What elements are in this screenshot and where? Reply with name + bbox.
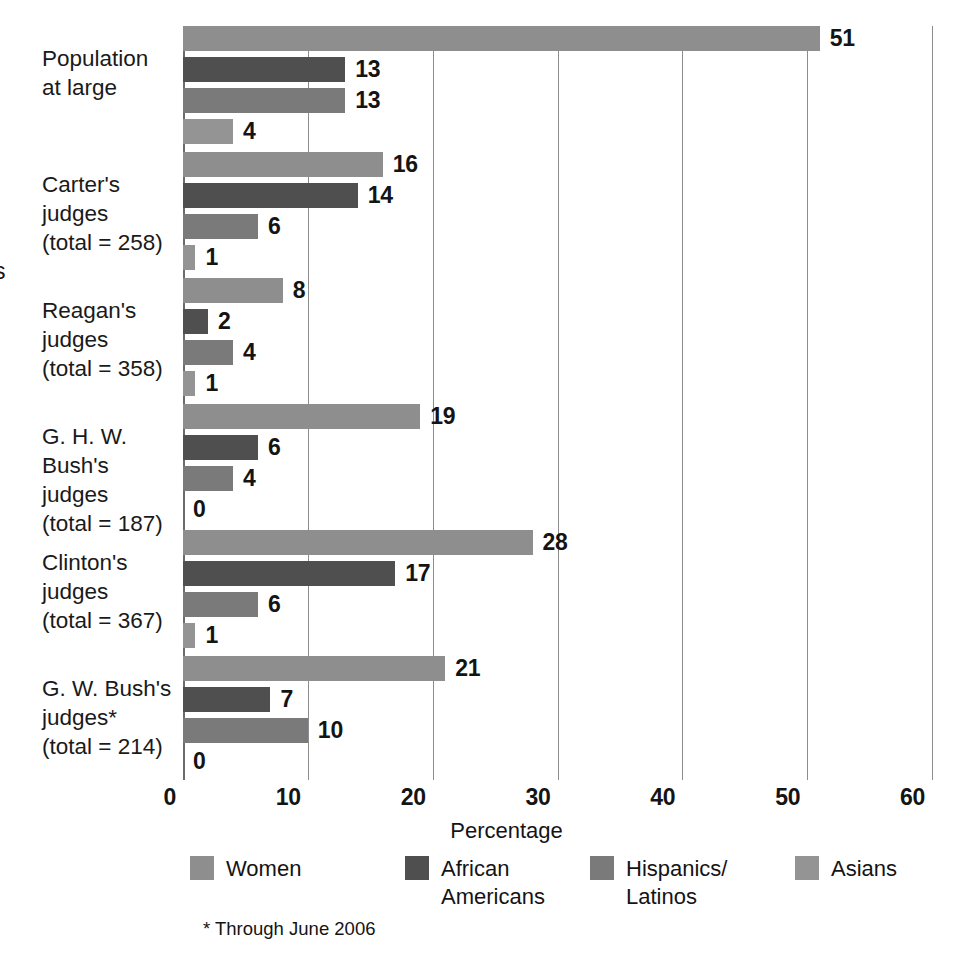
bar-row: 4 bbox=[183, 466, 932, 491]
bar-group: 5113134 bbox=[183, 26, 932, 150]
bar-value-label: 51 bbox=[830, 24, 855, 51]
bar-value-label: 4 bbox=[243, 338, 256, 365]
footnote: * Through June 2006 bbox=[203, 918, 375, 940]
category-label: G. H. W. Bush's judges (total = 187) bbox=[0, 422, 183, 538]
legend-swatch-icon bbox=[590, 856, 614, 880]
category-label-text: G. W. Bush's judges* (total = 214) bbox=[0, 674, 183, 761]
bar-value-label: 19 bbox=[430, 402, 455, 429]
legend-swatch-icon bbox=[795, 856, 819, 880]
legend-label: Hispanics/ Latinos bbox=[626, 855, 727, 911]
bar-value-label: 1 bbox=[205, 621, 218, 648]
bar-row: 1 bbox=[183, 245, 932, 270]
bar-value-label: 17 bbox=[405, 559, 430, 586]
bar-row: 51 bbox=[183, 26, 932, 51]
bar-row: 6 bbox=[183, 435, 932, 460]
legend-item[interactable]: Hispanics/ Latinos bbox=[590, 855, 727, 911]
bar-row: 1 bbox=[183, 371, 932, 396]
category-label: Population at large bbox=[0, 44, 183, 102]
bar-row: 13 bbox=[183, 88, 932, 113]
x-tick-20: 20 bbox=[401, 784, 431, 811]
bar-value-label: 28 bbox=[543, 528, 568, 555]
bar-row: 2 bbox=[183, 309, 932, 334]
bar-value-label: 10 bbox=[318, 716, 343, 743]
bar-value-label: 14 bbox=[368, 181, 393, 208]
bar bbox=[183, 561, 395, 586]
bar-value-label: 6 bbox=[268, 433, 281, 460]
x-tick-0: 0 bbox=[164, 784, 182, 811]
legend-item[interactable]: Asians bbox=[795, 855, 897, 883]
legend-label: African Americans bbox=[441, 855, 545, 911]
category-label-text: Clinton's judges (total = 367) bbox=[0, 548, 183, 635]
cropped-axis-label-fragment: s bbox=[0, 258, 6, 285]
bar-row: 4 bbox=[183, 340, 932, 365]
bar-row: 17 bbox=[183, 561, 932, 586]
legend-label: Women bbox=[226, 855, 301, 883]
x-axis-title-text: Percentage bbox=[450, 818, 563, 843]
category-label: Reagan's judges (total = 358) bbox=[0, 296, 183, 383]
bar-row: 0 bbox=[183, 749, 932, 774]
bar-group: 19640 bbox=[183, 404, 932, 528]
bar bbox=[183, 119, 233, 144]
bar bbox=[183, 466, 233, 491]
bar-group: 8241 bbox=[183, 278, 932, 402]
bar bbox=[183, 309, 208, 334]
legend-swatch-icon bbox=[190, 856, 214, 880]
bar-row: 4 bbox=[183, 119, 932, 144]
bar bbox=[183, 183, 358, 208]
bar-value-label: 4 bbox=[243, 117, 256, 144]
bar bbox=[183, 278, 283, 303]
bar-group: 161461 bbox=[183, 152, 932, 276]
bar bbox=[183, 88, 345, 113]
bar-value-label: 0 bbox=[193, 495, 206, 522]
bar bbox=[183, 245, 195, 270]
bar-group: 281761 bbox=[183, 530, 932, 654]
bar-value-label: 1 bbox=[205, 243, 218, 270]
bar-value-label: 2 bbox=[218, 307, 231, 334]
bar-row: 14 bbox=[183, 183, 932, 208]
bar-value-label: 6 bbox=[268, 212, 281, 239]
x-tick-40: 40 bbox=[650, 784, 680, 811]
bar-value-label: 13 bbox=[355, 86, 380, 113]
bar-value-label: 6 bbox=[268, 590, 281, 617]
gridline-60 bbox=[932, 26, 933, 780]
x-tick-60: 60 bbox=[900, 784, 930, 811]
bar bbox=[183, 26, 820, 51]
bar-value-label: 13 bbox=[355, 55, 380, 82]
bar-row: 1 bbox=[183, 623, 932, 648]
legend-item[interactable]: Women bbox=[190, 855, 301, 883]
bar bbox=[183, 435, 258, 460]
bar-value-label: 0 bbox=[193, 747, 206, 774]
legend-item[interactable]: African Americans bbox=[405, 855, 545, 911]
category-label: Clinton's judges (total = 367) bbox=[0, 548, 183, 635]
category-label-text: Carter's judges (total = 258) bbox=[0, 170, 183, 257]
bar bbox=[183, 152, 383, 177]
plot-area: 5113134161461824119640281761217100 bbox=[183, 26, 932, 780]
bar-row: 6 bbox=[183, 592, 932, 617]
bar-row: 19 bbox=[183, 404, 932, 429]
bar-row: 7 bbox=[183, 687, 932, 712]
bar-row: 8 bbox=[183, 278, 932, 303]
bar-row: 16 bbox=[183, 152, 932, 177]
bar-row: 28 bbox=[183, 530, 932, 555]
bar-value-label: 8 bbox=[293, 276, 306, 303]
bar-row: 6 bbox=[183, 214, 932, 239]
bar-row: 13 bbox=[183, 57, 932, 82]
chart-legend: WomenAfrican AmericansHispanics/ Latinos… bbox=[190, 855, 910, 925]
bar-value-label: 21 bbox=[455, 654, 480, 681]
bar-value-label: 7 bbox=[280, 685, 293, 712]
x-axis-title: Percentage bbox=[0, 818, 955, 844]
legend-label: Asians bbox=[831, 855, 897, 883]
bar bbox=[183, 404, 420, 429]
bar bbox=[183, 687, 270, 712]
category-label-text: Population at large bbox=[0, 44, 183, 102]
chart-container: s 5113134161461824119640281761217100 Pop… bbox=[0, 0, 955, 966]
bar-value-label: 16 bbox=[393, 150, 418, 177]
bar bbox=[183, 623, 195, 648]
bar bbox=[183, 214, 258, 239]
category-label: Carter's judges (total = 258) bbox=[0, 170, 183, 257]
bar-row: 21 bbox=[183, 656, 932, 681]
bar bbox=[183, 592, 258, 617]
bar-value-label: 1 bbox=[205, 369, 218, 396]
bar bbox=[183, 371, 195, 396]
category-label: G. W. Bush's judges* (total = 214) bbox=[0, 674, 183, 761]
